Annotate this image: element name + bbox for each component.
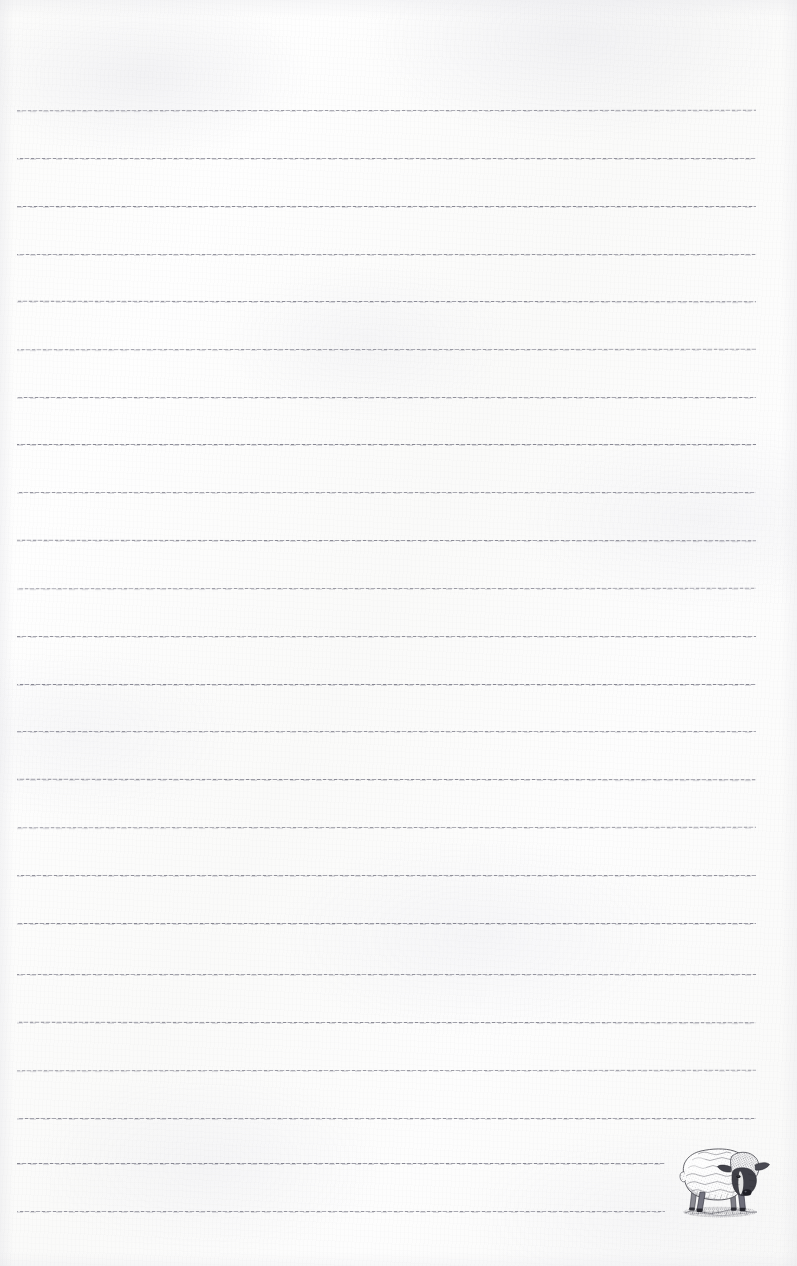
ruled-line — [17, 254, 756, 256]
ruled-line — [17, 206, 756, 208]
ruled-line — [17, 397, 756, 399]
ruled-line — [17, 1211, 665, 1213]
sheep-illustration — [668, 1134, 772, 1222]
ruled-line — [17, 1118, 756, 1120]
ruled-line — [17, 923, 756, 925]
ruled-line — [17, 779, 756, 781]
ruled-line — [17, 444, 756, 446]
ruled-line — [17, 1022, 756, 1024]
ruled-line — [17, 1163, 665, 1165]
ruled-line — [17, 588, 756, 590]
notepad-page — [0, 0, 797, 1266]
ruled-line — [17, 731, 756, 733]
ruled-lines-area — [0, 0, 797, 1266]
ruled-line — [17, 1070, 756, 1072]
ruled-line — [17, 875, 756, 877]
ruled-line — [17, 636, 756, 638]
ruled-line — [17, 492, 756, 494]
ruled-line — [17, 684, 756, 686]
ruled-line — [17, 349, 756, 351]
ruled-line — [17, 301, 756, 303]
ruled-line — [17, 974, 756, 976]
ruled-line — [17, 158, 756, 160]
ruled-line — [17, 827, 756, 829]
ruled-line — [17, 110, 756, 112]
ruled-line — [17, 540, 756, 542]
